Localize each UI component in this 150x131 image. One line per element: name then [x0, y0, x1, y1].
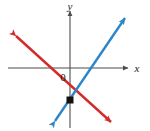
intersection-point-marker	[67, 97, 74, 104]
figure-background	[0, 0, 150, 131]
graph-canvas: x y 0	[0, 0, 150, 131]
coordinate-plane-figure: x y 0	[0, 0, 150, 131]
origin-label: 0	[60, 71, 66, 83]
y-axis-label: y	[67, 0, 73, 12]
x-axis-label: x	[134, 62, 140, 74]
